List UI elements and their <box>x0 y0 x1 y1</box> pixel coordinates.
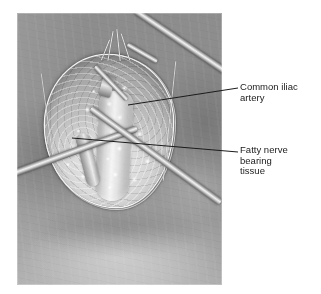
artery-highlight <box>94 90 134 202</box>
intraoperative-photo <box>17 13 222 285</box>
common-iliac-artery-structure <box>94 90 134 202</box>
figure-root: Common iliac artery Fatty nerve bearing … <box>0 0 321 294</box>
label-common-iliac-artery: Common iliac artery <box>240 82 298 103</box>
label-fatty-nerve-bearing-tissue: Fatty nerve bearing tissue <box>240 145 288 177</box>
